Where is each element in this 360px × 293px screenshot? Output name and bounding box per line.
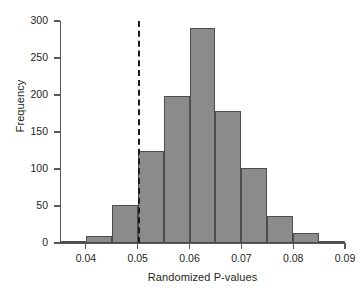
histogram-bar	[241, 168, 267, 243]
x-tick-label: 0.05	[115, 252, 161, 264]
histogram-bar	[86, 236, 112, 243]
threshold-dashed-line	[138, 21, 140, 243]
y-tick-label: 50	[2, 199, 48, 211]
x-tick-mark	[241, 243, 242, 249]
histogram-bar	[215, 111, 241, 243]
y-tick-label: 100	[2, 162, 48, 174]
x-tick-label: 0.09	[322, 252, 360, 264]
x-tick-label: 0.07	[218, 252, 264, 264]
x-tick-label: 0.04	[63, 252, 109, 264]
plot-area	[60, 21, 345, 243]
x-axis-title: Randomized P-values	[60, 271, 345, 283]
histogram-bar	[293, 233, 319, 243]
x-tick-label: 0.06	[167, 252, 213, 264]
x-tick-label: 0.08	[270, 252, 316, 264]
histogram-bar	[319, 241, 345, 243]
x-tick-mark	[344, 243, 345, 249]
x-tick-mark	[85, 243, 86, 249]
histogram-bar	[164, 96, 190, 243]
x-tick-mark	[137, 243, 138, 249]
histogram-bar	[138, 151, 164, 243]
y-tick-label: 150	[2, 125, 48, 137]
histogram-bar	[190, 28, 216, 243]
x-tick-mark	[293, 243, 294, 249]
histogram-bar	[60, 241, 86, 243]
y-axis-title: Frequency	[14, 46, 26, 166]
y-tick-label: 300	[2, 14, 48, 26]
histogram-bar	[112, 205, 138, 243]
y-tick-label: 200	[2, 88, 48, 100]
y-tick-label: 250	[2, 51, 48, 63]
x-tick-mark	[189, 243, 190, 249]
histogram-bar	[267, 216, 293, 243]
y-tick-label: 0	[2, 236, 48, 248]
